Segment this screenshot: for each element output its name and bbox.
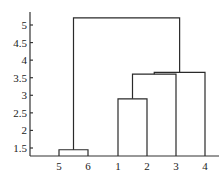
y-axis: 1.522.533.544.55 — [13, 12, 33, 156]
dendrogram-link — [154, 72, 205, 156]
y-tick-label: 4 — [22, 54, 28, 66]
y-tick-label: 5 — [22, 19, 28, 31]
leaf-label-6: 6 — [85, 160, 91, 172]
dendrogram-links — [59, 18, 205, 156]
y-tick-label: 2 — [22, 124, 28, 136]
leaf-label-3: 3 — [173, 160, 179, 172]
y-tick-label: 2.5 — [13, 107, 27, 119]
y-tick-label: 4.5 — [13, 37, 27, 49]
leaf-labels: 561234 — [56, 160, 208, 172]
leaf-label-5: 5 — [56, 160, 62, 172]
leaf-label-1: 1 — [115, 160, 121, 172]
y-tick-label: 3 — [22, 89, 28, 101]
y-tick-label: 1.5 — [13, 142, 27, 154]
y-tick-label: 3.5 — [13, 72, 27, 84]
leaf-label-2: 2 — [144, 160, 150, 172]
dendrogram-chart: 1.522.533.544.55 561234 — [0, 0, 223, 188]
leaf-label-4: 4 — [202, 160, 208, 172]
dendrogram-link — [118, 99, 147, 156]
dendrogram-link — [133, 74, 177, 156]
dendrogram-link — [59, 150, 88, 156]
dendrogram-link — [74, 18, 180, 150]
